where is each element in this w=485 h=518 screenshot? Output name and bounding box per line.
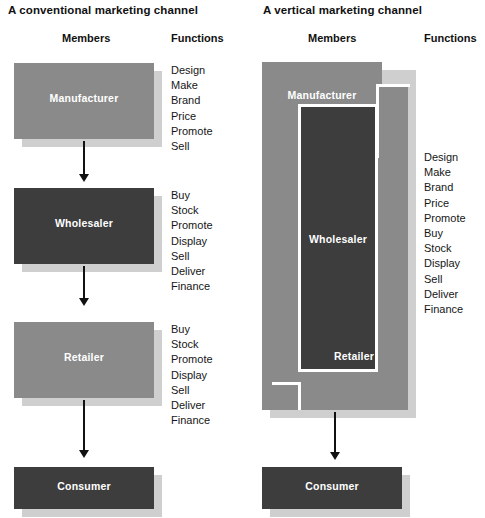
left-function-item: Brand bbox=[171, 93, 213, 108]
retailer-outline-bottom-step bbox=[272, 382, 301, 385]
right-members-header: Members bbox=[308, 32, 356, 44]
left-member-label-wholesaler: Wholesaler bbox=[14, 217, 154, 229]
left-function-item: Buy bbox=[171, 322, 213, 337]
retailer-outline-top bbox=[378, 84, 410, 87]
left-function-item: Stock bbox=[171, 203, 213, 218]
right-member-label-retailer: Retailer bbox=[300, 350, 408, 362]
right-member-box-retailer bbox=[378, 86, 408, 386]
left-function-list-wholesaler: BuyStockPromoteDisplaySellDeliverFinance bbox=[171, 188, 213, 294]
left-member-box-manufacturer: Manufacturer bbox=[14, 63, 154, 139]
left-member-box-wholesaler: Wholesaler bbox=[14, 188, 154, 264]
left-arrow-manufacturer-to-wholesaler bbox=[78, 141, 90, 182]
left-arrow-retailer-to-consumer bbox=[78, 400, 90, 458]
right-function-item: Price bbox=[424, 196, 466, 211]
left-member-label-manufacturer: Manufacturer bbox=[14, 92, 154, 104]
left-function-item: Display bbox=[171, 234, 213, 249]
right-function-item: Finance bbox=[424, 302, 466, 317]
left-panel-title: A conventional marketing channel bbox=[8, 4, 198, 16]
left-function-item: Deliver bbox=[171, 398, 213, 413]
right-member-label-wholesaler: Wholesaler bbox=[301, 233, 375, 245]
right-function-item: Promote bbox=[424, 211, 466, 226]
left-members-header: Members bbox=[62, 32, 110, 44]
left-function-item: Price bbox=[171, 109, 213, 124]
left-function-list-retailer: BuyStockPromoteDisplaySellDeliverFinance bbox=[171, 322, 213, 428]
right-arrow-system-to-consumer bbox=[329, 412, 341, 460]
right-panel-title: A vertical marketing channel bbox=[263, 4, 422, 16]
right-function-item: Deliver bbox=[424, 287, 466, 302]
right-function-item: Sell bbox=[424, 272, 466, 287]
left-member-box-consumer: Consumer bbox=[14, 467, 154, 509]
right-functions-header: Functions bbox=[424, 32, 477, 44]
right-member-label-consumer: Consumer bbox=[262, 480, 402, 492]
right-function-item: Buy bbox=[424, 226, 466, 241]
left-function-item: Make bbox=[171, 78, 213, 93]
right-function-item: Design bbox=[424, 150, 466, 165]
right-member-box-wholesaler: Wholesaler bbox=[301, 107, 375, 369]
right-member-box-consumer: Consumer bbox=[262, 467, 402, 509]
left-function-item: Finance bbox=[171, 279, 213, 294]
retailer-outline-lower-left bbox=[298, 382, 301, 410]
left-function-item: Sell bbox=[171, 139, 213, 154]
left-function-item: Display bbox=[171, 368, 213, 383]
left-function-list-manufacturer: DesignMakeBrandPricePromoteSell bbox=[171, 63, 213, 154]
left-function-item: Design bbox=[171, 63, 213, 78]
left-function-item: Promote bbox=[171, 218, 213, 233]
left-function-item: Sell bbox=[171, 249, 213, 264]
left-function-item: Buy bbox=[171, 188, 213, 203]
left-function-item: Promote bbox=[171, 352, 213, 367]
right-function-item: Brand bbox=[424, 180, 466, 195]
right-function-list: DesignMakeBrandPricePromoteBuyStockDispl… bbox=[424, 150, 466, 317]
left-function-item: Finance bbox=[171, 413, 213, 428]
left-function-item: Sell bbox=[171, 383, 213, 398]
right-function-item: Make bbox=[424, 165, 466, 180]
left-function-item: Deliver bbox=[171, 264, 213, 279]
left-member-label-consumer: Consumer bbox=[14, 480, 154, 492]
figure-canvas: A conventional marketing channel A verti… bbox=[0, 0, 485, 518]
left-function-item: Stock bbox=[171, 337, 213, 352]
left-member-box-retailer: Retailer bbox=[14, 322, 154, 398]
left-arrow-wholesaler-to-retailer bbox=[78, 266, 90, 306]
right-function-item: Display bbox=[424, 256, 466, 271]
right-member-label-manufacturer: Manufacturer bbox=[262, 89, 382, 101]
left-functions-header: Functions bbox=[171, 32, 224, 44]
right-function-item: Stock bbox=[424, 241, 466, 256]
left-function-item: Promote bbox=[171, 124, 213, 139]
left-member-label-retailer: Retailer bbox=[14, 351, 154, 363]
